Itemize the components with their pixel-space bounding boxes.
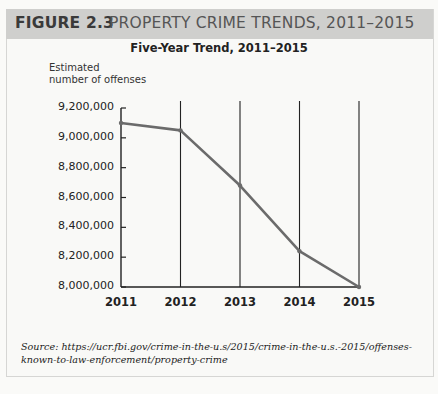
data-point xyxy=(357,285,361,289)
source-citation: Source: https://ucr.fbi.gov/crime-in-the… xyxy=(21,340,431,366)
data-point xyxy=(297,249,301,253)
data-point xyxy=(238,183,242,187)
line-plot xyxy=(0,0,438,394)
data-point xyxy=(178,128,182,132)
data-point xyxy=(119,121,123,125)
